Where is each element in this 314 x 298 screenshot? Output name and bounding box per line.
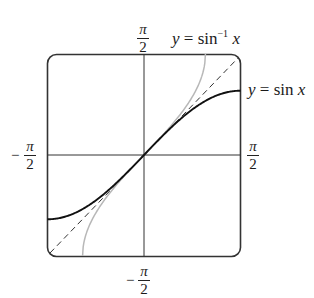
arcsin-label-var: x	[232, 29, 240, 48]
bottom-label-den: 2	[140, 281, 148, 297]
right-label: π 2	[247, 139, 259, 172]
sin-label-fn: sin	[274, 80, 294, 99]
top-label-num: π	[138, 22, 148, 38]
arcsin-label-sup: −1	[217, 28, 228, 39]
right-label-den: 2	[249, 156, 257, 172]
arcsin-label-fn: sin	[198, 29, 218, 48]
bottom-label: π 2	[138, 264, 150, 297]
left-label-num: π	[25, 139, 35, 155]
top-label-den: 2	[139, 39, 147, 55]
left-label-den: 2	[26, 156, 34, 172]
right-label-num: π	[248, 139, 258, 155]
bottom-label-num: π	[139, 264, 149, 280]
sin-label-var: x	[298, 80, 306, 99]
arcsin-label: y = sin−1 x	[172, 29, 240, 47]
sin-label: y = sin x	[248, 81, 305, 98]
bottom-label-sign: −	[126, 273, 134, 288]
left-label: π 2	[24, 139, 36, 172]
graph-canvas	[0, 0, 314, 298]
left-label-sign: −	[11, 148, 19, 163]
top-label: π 2	[137, 22, 149, 55]
